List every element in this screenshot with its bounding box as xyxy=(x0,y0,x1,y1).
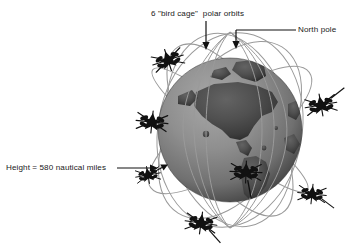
diagram-canvas xyxy=(0,0,353,251)
satellite-right xyxy=(303,88,349,119)
label-birdcage-orbits: 6 "bird cage" polar orbits xyxy=(151,10,244,18)
satellite-lower-right xyxy=(296,183,336,208)
earth-globe xyxy=(158,58,302,202)
label-north-pole: North pole xyxy=(298,26,336,34)
label-orbit-height: Height = 580 nautical miles xyxy=(6,164,106,172)
satellite-orbit-diagram: 6 "bird cage" polar orbits North pole He… xyxy=(0,0,353,251)
arrow-right-icon-height xyxy=(117,165,158,172)
